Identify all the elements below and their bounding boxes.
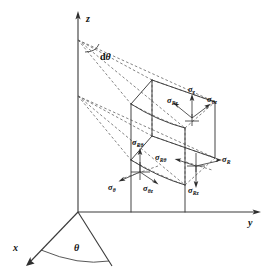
sigma-z-label: σz: [188, 85, 195, 94]
lower-ray-outer-left: [78, 96, 152, 136]
sigma-R-sub: R: [227, 159, 231, 165]
sigma-theta-label: σθ: [108, 183, 116, 192]
sigma-theta-glyph: σ: [108, 182, 113, 192]
side-face-arrows: [119, 148, 159, 184]
sigma-Rz-sub: Rz: [172, 100, 178, 106]
sigma-R-arrowhead: [215, 158, 222, 162]
z-axis-label: z: [86, 14, 90, 24]
right-face-radial-bottom: [185, 158, 215, 185]
upper-construction-lines: [78, 40, 215, 128]
sigma-theta-z-arrow: [192, 106, 208, 118]
sigma-theta-z-side-arrow: [140, 172, 155, 182]
sigma-Rz-outer-label: σRz: [188, 186, 199, 195]
sigma-theta-z-side-glyph: σ: [143, 183, 148, 193]
right-face-radial-top: [185, 102, 215, 128]
sigma-R-theta-side-sub: Rθ: [137, 142, 144, 148]
x-axis-label: x: [13, 243, 18, 253]
sigma-R-theta-outer-sub: Rθ: [160, 157, 167, 163]
sigma-R-theta-side-label: σRθ: [132, 138, 143, 147]
axes-group: [26, 11, 261, 266]
sigma-Rz-label: σRz: [167, 96, 178, 105]
top-outer-curve: [152, 80, 215, 102]
top-inner-arc: [131, 104, 185, 128]
azimuth-angle-label: θ: [74, 243, 79, 253]
sigma-Rz-outer-sub: Rz: [193, 190, 199, 196]
sigma-R-glyph: σ: [222, 154, 227, 164]
sigma-z-glyph: σ: [188, 84, 193, 94]
sigma-R-theta-outer-arrow: [178, 160, 196, 166]
wedge-angle-symbol: θ: [106, 51, 111, 62]
azimuth-angle-symbol: θ: [74, 242, 79, 253]
lower-ray-inner-left: [78, 96, 131, 160]
figure-root: z y x dθ θ σz σRz σθz σRθ σRz σR σRθ σθ …: [0, 0, 276, 279]
sigma-theta-z-side-sub: θz: [148, 188, 153, 194]
lower-ray-outer-right: [78, 96, 215, 158]
sigma-theta-z-glyph: σ: [207, 94, 212, 104]
sigma-Rz-arrow: [176, 105, 192, 118]
sigma-theta-sub: θ: [113, 187, 116, 193]
sigma-theta-z-label: σθz: [207, 95, 217, 104]
sigma-theta-z-sub: θz: [212, 99, 217, 105]
sigma-theta-z-side-label: σθz: [143, 184, 153, 193]
sigma-theta-z-side-arrowhead: [152, 179, 159, 185]
left-face-top-radial: [131, 80, 152, 104]
sigma-Rz-outer-glyph: σ: [188, 185, 193, 195]
upper-ray-outer-left: [78, 40, 152, 80]
upper-ray-inner-left: [78, 40, 131, 104]
y-axis-label: y: [248, 218, 252, 228]
wedge-angle-label: dθ: [100, 52, 111, 62]
azimuth-radial-ray: [78, 212, 112, 266]
inner-front-curve-top: [131, 104, 185, 128]
sigma-R-label: σR: [222, 155, 230, 164]
sigma-R-theta-side-glyph: σ: [132, 137, 137, 147]
sigma-z-sub: z: [193, 89, 195, 95]
sigma-Rz-glyph: σ: [167, 95, 172, 105]
sigma-R-theta-outer-label: σRθ: [155, 153, 166, 162]
sigma-R-theta-outer-glyph: σ: [155, 152, 160, 162]
